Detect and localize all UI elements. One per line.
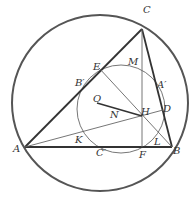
geometry-diagram: C M E B′ A′ O H D N K L A C′ F B: [0, 0, 195, 201]
label-f: F: [138, 149, 147, 160]
label-c: C: [143, 4, 151, 15]
label-a: A: [12, 143, 20, 154]
label-e: E: [92, 61, 101, 72]
label-h: H: [140, 106, 150, 117]
label-d: D: [162, 103, 171, 114]
label-n: N: [109, 109, 120, 120]
label-c-prime: C′: [96, 147, 107, 158]
side-ac: [25, 29, 142, 147]
label-a-prime: A′: [156, 79, 167, 90]
label-l: L: [153, 136, 161, 147]
label-m: M: [127, 56, 139, 67]
label-o: O: [93, 93, 101, 104]
label-b-prime: B′: [74, 77, 85, 88]
nine-point-circle: [77, 65, 165, 153]
label-k: K: [74, 134, 83, 145]
label-b: B: [172, 145, 180, 156]
segment-oh: [97, 103, 142, 116]
